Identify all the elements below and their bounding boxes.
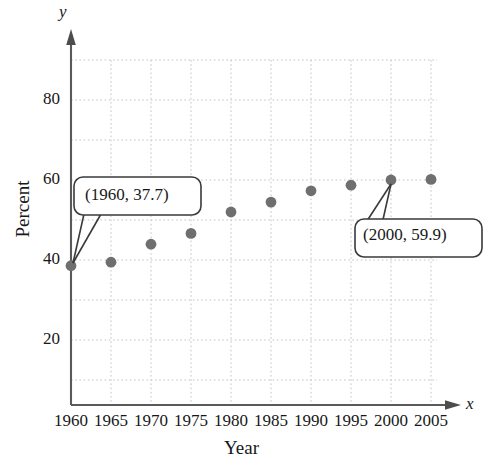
y-axis-arrowhead [66,29,76,45]
data-point-1985[interactable] [266,197,277,208]
data-point-1960[interactable] [66,260,77,271]
y-axis-variable-label: y [59,2,67,22]
data-point-2000[interactable] [386,175,397,186]
x-tick-label-1980: 1980 [210,411,252,431]
callout-1-leader [73,214,101,263]
y-axis-title: Percent [12,164,34,254]
x-tick-label-1975: 1975 [170,411,212,431]
x-tick-label-2000: 2000 [370,411,412,431]
x-axis [71,400,461,410]
callout-2-leader [365,184,391,224]
x-tick-label-1965: 1965 [90,411,132,431]
data-point-1990[interactable] [306,185,317,196]
data-point-2005[interactable] [426,174,437,185]
x-tick-label-1995: 1995 [330,411,372,431]
data-point-1970[interactable] [146,239,157,250]
y-tick-label-80: 80 [26,89,60,109]
x-axis-arrowhead [445,400,461,410]
x-axis-variable-label: x [466,394,474,414]
data-point-1995[interactable] [346,180,357,191]
x-tick-label-1960: 1960 [50,411,92,431]
scatter-plot-figure: (1960, 37.7) (2000, 59.9) y x 80 60 40 2… [0,0,483,468]
x-tick-label-1985: 1985 [250,411,292,431]
callout-label-1960: (1960, 37.7) [85,185,169,205]
y-tick-label-20: 20 [26,329,60,349]
y-axis [66,29,76,405]
data-point-1980[interactable] [226,207,237,218]
x-axis-title: Year [0,437,483,459]
x-tick-label-2005: 2005 [410,411,452,431]
x-tick-label-1970: 1970 [130,411,172,431]
data-point-1975[interactable] [186,228,197,239]
data-point-1965[interactable] [106,257,117,268]
callout-label-2000: (2000, 59.9) [363,225,447,245]
x-tick-label-1990: 1990 [290,411,332,431]
